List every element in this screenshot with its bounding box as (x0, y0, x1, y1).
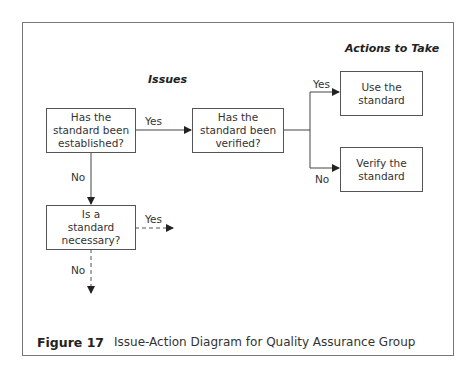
node-necessary: Is a standard necessary? (46, 205, 136, 250)
node-verified: Has the standard been verified? (192, 108, 284, 153)
node-use-standard: Use the standard (340, 71, 423, 116)
node-verified-text: Has the standard been verified? (193, 111, 283, 150)
node-established: Has the standard been established? (46, 108, 136, 153)
node-verify-text: Verify the standard (355, 157, 408, 183)
node-established-text: Has the standard been established? (47, 111, 135, 150)
issues-header: Issues (148, 73, 187, 86)
node-necessary-text: Is a standard necessary? (61, 208, 121, 247)
edge-label-verified-no: No (315, 173, 329, 185)
edge-label-established-yes: Yes (145, 115, 162, 127)
edge-label-necessary-no: No (71, 264, 85, 276)
figure-number: Figure 17 (37, 335, 104, 350)
actions-header: Actions to Take (345, 42, 439, 55)
node-verify-standard: Verify the standard (340, 147, 423, 192)
edge-label-necessary-yes: Yes (145, 213, 162, 225)
figure-caption: Issue-Action Diagram for Quality Assuran… (114, 335, 415, 349)
edge-label-established-no: No (71, 171, 85, 183)
edge-label-verified-yes: Yes (313, 78, 330, 90)
node-use-text: Use the standard (355, 81, 408, 107)
